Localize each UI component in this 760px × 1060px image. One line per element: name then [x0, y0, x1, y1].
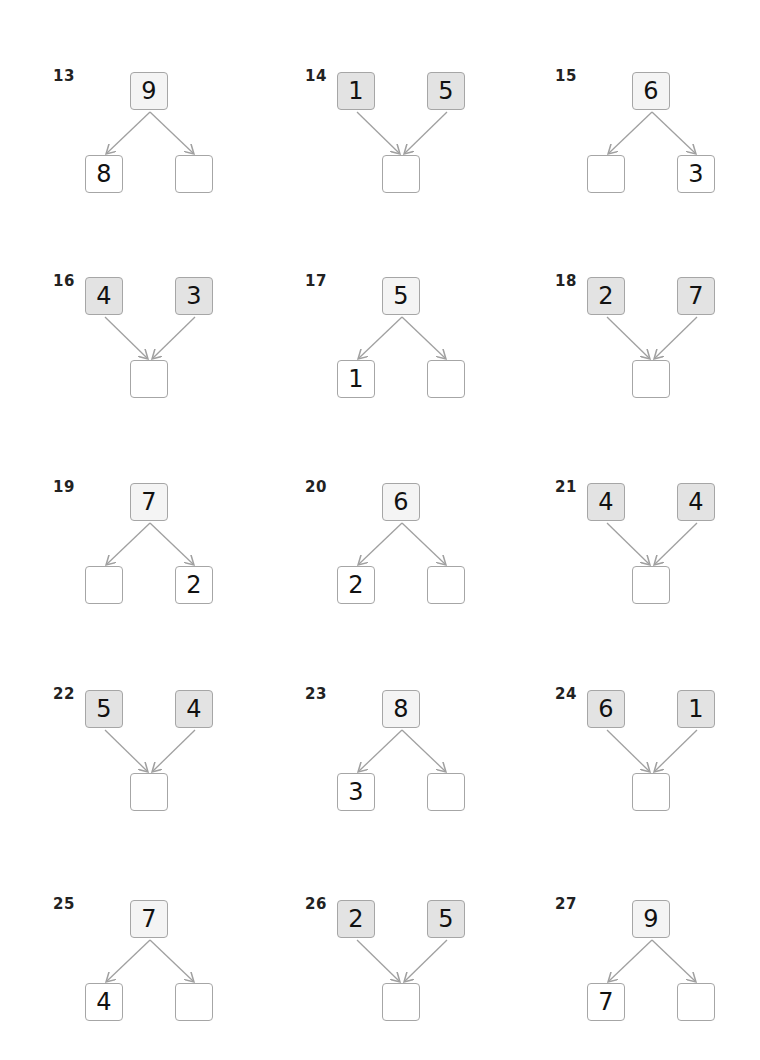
whole-box: 9	[130, 72, 168, 110]
part-box-right[interactable]	[427, 360, 465, 398]
part-box-right[interactable]	[175, 983, 213, 1021]
arrow	[153, 317, 195, 358]
arrow	[150, 112, 193, 153]
problem-number: 19	[53, 478, 75, 496]
whole-box: 6	[632, 72, 670, 110]
part-box-right[interactable]	[677, 983, 715, 1021]
part-box-right[interactable]	[427, 773, 465, 811]
arrow	[357, 112, 399, 153]
problem-number: 21	[555, 478, 577, 496]
part-box-right: 3	[677, 155, 715, 193]
arrow	[607, 730, 649, 771]
arrow	[402, 317, 445, 358]
arrow	[105, 317, 147, 358]
arrow	[357, 940, 399, 981]
problem-number: 25	[53, 895, 75, 913]
arrow	[107, 523, 150, 564]
problem-number: 22	[53, 685, 75, 703]
arrow	[402, 523, 445, 564]
whole-box: 5	[382, 277, 420, 315]
problem-number: 23	[305, 685, 327, 703]
whole-box[interactable]	[130, 360, 168, 398]
problem-number: 17	[305, 272, 327, 290]
arrow	[652, 112, 695, 153]
problem-number: 26	[305, 895, 327, 913]
part-box-left: 6	[587, 690, 625, 728]
part-box-left: 4	[85, 277, 123, 315]
part-box-left: 8	[85, 155, 123, 193]
arrow	[107, 112, 150, 153]
arrow	[359, 317, 402, 358]
part-box-left: 7	[587, 983, 625, 1021]
whole-box: 7	[130, 483, 168, 521]
arrow	[150, 940, 193, 981]
arrow	[150, 523, 193, 564]
arrow	[405, 940, 447, 981]
arrow	[652, 940, 695, 981]
problem-number: 15	[555, 67, 577, 85]
part-box-left: 1	[337, 360, 375, 398]
arrow	[105, 730, 147, 771]
whole-box[interactable]	[382, 983, 420, 1021]
arrow	[655, 317, 697, 358]
arrow	[359, 523, 402, 564]
arrow	[655, 523, 697, 564]
part-box-right: 5	[427, 900, 465, 938]
arrow	[107, 940, 150, 981]
part-box-right: 7	[677, 277, 715, 315]
problem-number: 20	[305, 478, 327, 496]
part-box-left: 2	[587, 277, 625, 315]
part-box-right[interactable]	[427, 566, 465, 604]
whole-box: 9	[632, 900, 670, 938]
problem-number: 16	[53, 272, 75, 290]
arrow	[607, 317, 649, 358]
arrow	[153, 730, 195, 771]
whole-box[interactable]	[632, 773, 670, 811]
part-box-right: 4	[677, 483, 715, 521]
problem-number: 18	[555, 272, 577, 290]
arrow	[607, 523, 649, 564]
arrow	[405, 112, 447, 153]
part-box-left: 1	[337, 72, 375, 110]
whole-box: 6	[382, 483, 420, 521]
part-box-left: 4	[85, 983, 123, 1021]
whole-box[interactable]	[130, 773, 168, 811]
part-box-left[interactable]	[587, 155, 625, 193]
part-box-right: 5	[427, 72, 465, 110]
problem-number: 14	[305, 67, 327, 85]
whole-box[interactable]	[632, 360, 670, 398]
part-box-right: 3	[175, 277, 213, 315]
arrow	[359, 730, 402, 771]
part-box-right: 2	[175, 566, 213, 604]
arrow	[402, 730, 445, 771]
part-box-left: 4	[587, 483, 625, 521]
problem-number: 27	[555, 895, 577, 913]
part-box-right: 4	[175, 690, 213, 728]
problem-number: 24	[555, 685, 577, 703]
whole-box[interactable]	[632, 566, 670, 604]
arrow	[609, 940, 652, 981]
part-box-left: 5	[85, 690, 123, 728]
part-box-left: 2	[337, 566, 375, 604]
part-box-left[interactable]	[85, 566, 123, 604]
whole-box: 7	[130, 900, 168, 938]
arrow	[655, 730, 697, 771]
part-box-right[interactable]	[175, 155, 213, 193]
part-box-left: 2	[337, 900, 375, 938]
part-box-right: 1	[677, 690, 715, 728]
whole-box: 8	[382, 690, 420, 728]
whole-box[interactable]	[382, 155, 420, 193]
arrow	[609, 112, 652, 153]
problem-number: 13	[53, 67, 75, 85]
part-box-left: 3	[337, 773, 375, 811]
